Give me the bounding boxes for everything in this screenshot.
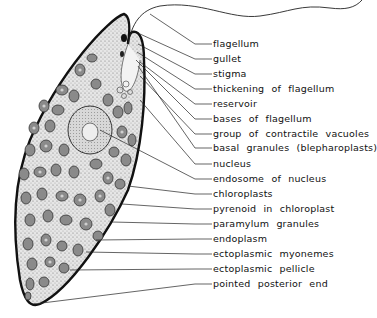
label-chloroplasts: chloroplasts	[213, 188, 273, 199]
label-flagellum: flagellum	[213, 38, 259, 49]
label-ectoplasmic-myonemes: ectoplasmic myonemes	[213, 248, 334, 259]
label-reservoir: reservoir	[213, 98, 257, 109]
label-endosome: endosome of nucleus	[213, 173, 326, 184]
label-pointed-posterior-end: pointed posterior end	[213, 278, 328, 289]
stigma-spot	[121, 34, 127, 42]
label-bases-of-flagellum: bases of flagellum	[213, 113, 312, 124]
label-ectoplasmic-pellicle: ectoplasmic pellicle	[213, 263, 315, 274]
label-pyrenoid: pyrenoid in chloroplast	[213, 203, 334, 214]
label-endoplasm: endoplasm	[213, 233, 267, 244]
label-thickening-of-flagellum: thickening of flagellum	[213, 83, 334, 94]
label-contractile-vacuoles: group of contractile vacuoles	[213, 128, 369, 139]
nucleus	[68, 106, 112, 154]
label-gullet: gullet	[213, 53, 241, 64]
label-paramylum-granules: paramylum granules	[213, 218, 319, 229]
label-stigma: stigma	[213, 68, 247, 79]
label-nucleus: nucleus	[213, 158, 251, 169]
label-basal-granules: basal granules (blepharoplasts)	[213, 142, 377, 153]
